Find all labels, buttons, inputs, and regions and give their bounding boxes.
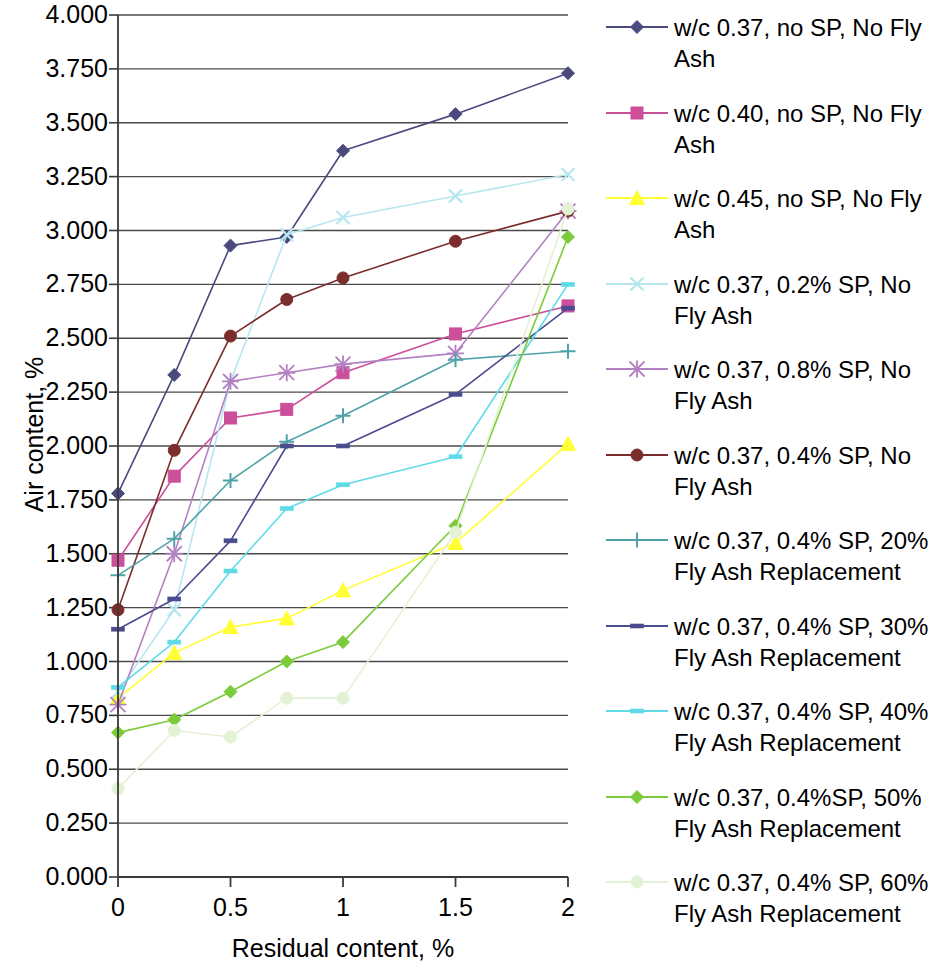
data-point-marker <box>225 330 237 342</box>
legend-item[interactable]: w/c 0.37, 0.4% SP, 40% Fly Ash Replaceme… <box>604 696 941 758</box>
data-point-marker <box>562 306 575 310</box>
marker-circle <box>631 449 643 461</box>
marker-diamond <box>449 108 462 121</box>
legend-item-label: w/c 0.37, 0.4% SP, 40% Fly Ash Replaceme… <box>674 696 928 758</box>
marker-circle <box>281 692 293 704</box>
legend-key-swatch <box>604 12 670 42</box>
series-line <box>118 444 568 698</box>
data-point-marker <box>337 144 350 157</box>
legend-item-label: w/c 0.37, 0.4% SP, 30% Fly Ash Replaceme… <box>674 611 928 673</box>
marker-dash <box>562 282 575 286</box>
legend-marker-icon <box>604 611 670 641</box>
marker-circle <box>450 235 462 247</box>
legend-item[interactable]: w/c 0.45, no SP, No Fly Ash <box>604 183 941 245</box>
data-point-marker <box>450 235 462 247</box>
legend-key-swatch <box>604 440 670 470</box>
legend-item-label: w/c 0.37, 0.8% SP, No Fly Ash <box>674 354 911 416</box>
data-point-marker <box>280 655 293 668</box>
data-point-marker <box>278 364 295 381</box>
data-point-marker <box>335 356 352 373</box>
data-point-marker <box>561 436 576 450</box>
marker-triangle <box>167 645 182 659</box>
marker-circle <box>631 876 643 888</box>
data-series <box>112 300 574 566</box>
legend-key-swatch <box>604 354 670 384</box>
legend-item[interactable]: w/c 0.37, 0.4% SP, 60% Fly Ash Replaceme… <box>604 867 941 929</box>
data-point-marker <box>337 211 350 224</box>
data-point-marker <box>337 272 349 284</box>
data-point-marker <box>631 709 644 713</box>
data-point-marker <box>168 470 180 482</box>
legend-item[interactable]: w/c 0.37, 0.4% SP, 20% Fly Ash Replaceme… <box>604 525 941 587</box>
legend-key-swatch <box>604 183 670 213</box>
data-point-marker <box>166 545 183 562</box>
legend-item[interactable]: w/c 0.37, 0.4%SP, 50% Fly Ash Replacemen… <box>604 782 941 844</box>
marker-dash <box>631 624 644 628</box>
data-point-marker <box>280 444 293 448</box>
marker-dash <box>224 569 237 573</box>
series-line <box>118 211 568 704</box>
marker-diamond <box>280 655 293 668</box>
data-point-marker <box>281 403 293 415</box>
legend-key-swatch <box>604 867 670 897</box>
data-point-marker <box>631 876 643 888</box>
legend-marker-icon <box>604 782 670 812</box>
x-tick-label: 0.5 <box>191 895 271 920</box>
marker-diamond <box>168 368 181 381</box>
legend-item-label: w/c 0.37, 0.4% SP, 20% Fly Ash Replaceme… <box>674 525 928 587</box>
data-point-marker <box>224 569 237 573</box>
legend-item[interactable]: w/c 0.40, no SP, No Fly Ash <box>604 98 941 160</box>
legend-key-swatch <box>604 696 670 726</box>
legend-marker-icon <box>604 98 670 128</box>
data-point-marker <box>449 455 462 459</box>
data-point-marker <box>168 368 181 381</box>
data-point-marker <box>450 526 462 538</box>
x-tick-label: 1.5 <box>416 895 496 920</box>
series-group <box>110 67 577 795</box>
x-tick-label: 2 <box>528 895 608 920</box>
data-point-marker <box>168 444 180 456</box>
data-point-marker <box>279 611 294 625</box>
data-point-marker <box>631 21 644 34</box>
marker-square <box>450 328 462 340</box>
data-point-marker <box>336 583 351 597</box>
data-point-marker <box>337 692 349 704</box>
marker-diamond <box>224 685 237 698</box>
data-point-marker <box>222 373 239 390</box>
marker-cross <box>337 211 350 224</box>
data-point-marker <box>561 344 576 359</box>
legend-item[interactable]: w/c 0.37, 0.8% SP, No Fly Ash <box>604 354 941 416</box>
marker-dash <box>168 640 181 644</box>
data-point-marker <box>631 624 644 628</box>
legend-item-label: w/c 0.37, 0.4% SP, No Fly Ash <box>674 440 911 502</box>
x-axis-ticks <box>118 877 568 887</box>
marker-dash <box>449 392 462 396</box>
marker-square <box>631 107 643 119</box>
legend-item[interactable]: w/c 0.37, 0.4% SP, 30% Fly Ash Replaceme… <box>604 611 941 673</box>
legend-item[interactable]: w/c 0.37, 0.4% SP, No Fly Ash <box>604 440 941 502</box>
data-point-marker <box>629 361 646 378</box>
data-point-marker <box>449 108 462 121</box>
data-point-marker <box>449 190 462 203</box>
data-point-marker <box>336 408 351 423</box>
marker-dash <box>337 444 350 448</box>
legend-item[interactable]: w/c 0.37, no SP, No Fly Ash <box>604 12 941 74</box>
marker-diamond <box>337 144 350 157</box>
marker-dash <box>224 539 237 543</box>
marker-circle <box>562 203 574 215</box>
data-point-marker <box>168 603 181 616</box>
marker-circle <box>450 526 462 538</box>
data-point-marker <box>630 533 645 548</box>
air-content-line-chart: 0.0000.2500.5000.7501.0001.2501.5001.750… <box>0 0 941 972</box>
marker-star <box>278 364 295 381</box>
marker-dash <box>168 597 181 601</box>
marker-circle <box>337 272 349 284</box>
marker-triangle <box>561 436 576 450</box>
legend-key-swatch <box>604 525 670 555</box>
legend-key-swatch <box>604 269 670 299</box>
marker-circle <box>168 724 180 736</box>
legend-item[interactable]: w/c 0.37, 0.2% SP, No Fly Ash <box>604 269 941 331</box>
marker-circle <box>281 293 293 305</box>
marker-star <box>335 356 352 373</box>
marker-diamond <box>631 21 644 34</box>
